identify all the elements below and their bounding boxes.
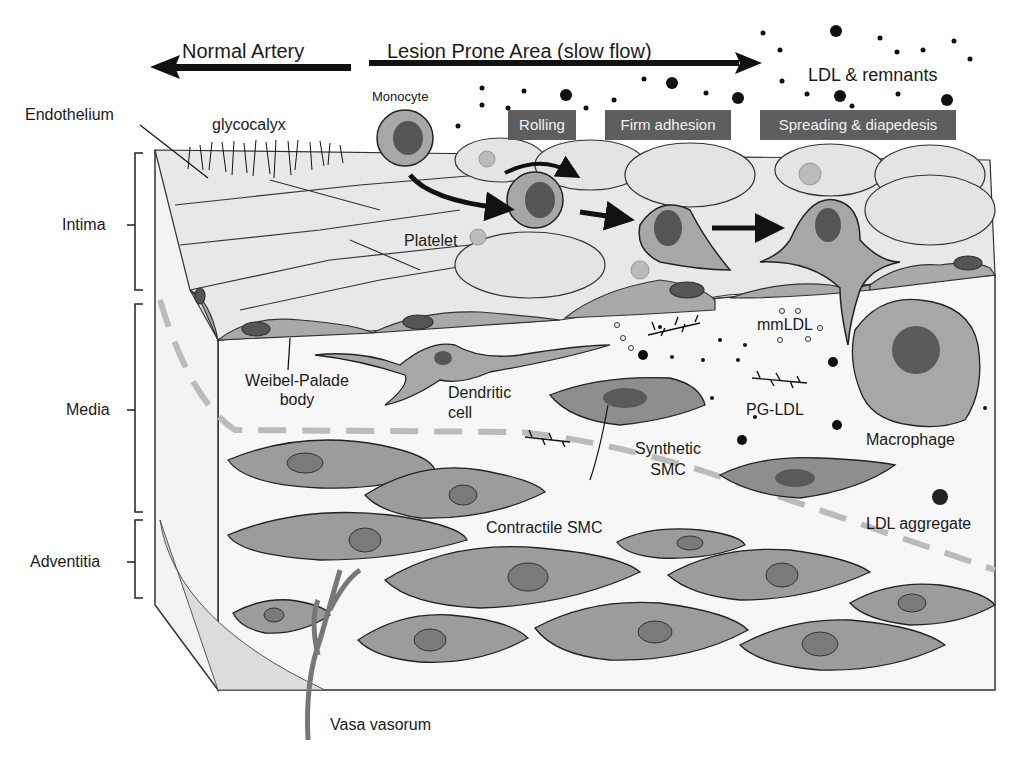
mmldl-label: mmLDL <box>757 316 813 334</box>
stage-rolling: Rolling <box>508 110 576 140</box>
synthetic-smc-label-line1: Synthetic <box>628 440 708 458</box>
stage-firm-adhesion: Firm adhesion <box>605 110 731 140</box>
contractile-smc-label: Contractile SMC <box>486 519 602 537</box>
ldl-aggregate-label: LDL aggregate <box>866 515 971 533</box>
monocyte-free <box>377 110 433 166</box>
weibel-palade-label-line1: Weibel-Palade <box>238 372 356 390</box>
dendritic-label-line1: Dendritic <box>448 384 511 402</box>
ldl-remnants-label: LDL & remnants <box>808 64 937 86</box>
ldl-aggregate <box>932 489 948 505</box>
synthetic-smc-label-line2: SMC <box>628 461 708 479</box>
vasa-vasorum-label: Vasa vasorum <box>330 716 431 734</box>
stage-spreading-diapedesis: Spreading & diapedesis <box>760 110 956 140</box>
platelet-label: Platelet <box>404 232 457 250</box>
endothelium-label: Endothelium <box>25 106 114 124</box>
layer-adventitia-label: Adventitia <box>30 553 100 571</box>
glycocalyx-label: glycocalyx <box>212 116 286 134</box>
macrophage <box>852 299 979 426</box>
normal-artery-label: Normal Artery <box>182 40 304 62</box>
dendritic-label-line2: cell <box>448 404 472 422</box>
macrophage-label: Macrophage <box>866 431 955 449</box>
layer-intima-label: Intima <box>62 216 106 234</box>
monocyte-label: Monocyte <box>372 88 428 106</box>
weibel-palade-label-line2: body <box>238 391 356 409</box>
lesion-prone-label: Lesion Prone Area (slow flow) <box>387 40 652 62</box>
layer-media-label: Media <box>66 401 110 419</box>
pg-ldl-label: PG-LDL <box>746 401 804 419</box>
layer-brackets <box>127 153 143 598</box>
monocyte-rolling <box>507 172 563 228</box>
